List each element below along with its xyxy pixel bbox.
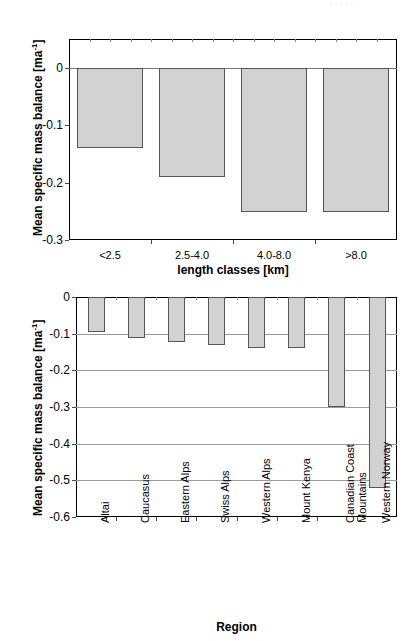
ytick-label: 0 [30, 291, 70, 303]
axis-minor-tick [116, 297, 117, 300]
bar [168, 297, 185, 342]
xtick-label: Caucasus [140, 474, 152, 523]
xtick-label-line: Eastern Alps [180, 461, 192, 523]
axis-minor-tick [277, 297, 278, 300]
xtick-label-line: Western Alps [261, 458, 273, 523]
bar [248, 297, 265, 348]
ytick-mark [72, 334, 76, 335]
xtick-label: Western Alps [261, 458, 273, 523]
xtick-label: Canadian CoastMountains [345, 444, 368, 523]
xtick-mark [116, 517, 117, 521]
xtick-label-line: Caucasus [140, 474, 152, 523]
xtick-label: Altai [100, 502, 112, 523]
xtick-mark [196, 517, 197, 521]
xtick-label-line: Swiss Alps [220, 470, 232, 523]
ytick-mark [72, 407, 76, 408]
axis-title-y: Mean specific mass balance [ma-1] [30, 319, 45, 516]
gridline [76, 334, 397, 335]
xtick-label: Swiss Alps [220, 470, 232, 523]
chart-regions: 0-0.1-0.2-0.3-0.4-0.5-0.6AltaiCaucasusEa… [0, 0, 418, 641]
axis-title-x: Region [76, 620, 397, 634]
gridline [76, 407, 397, 408]
axis-minor-tick [317, 297, 318, 300]
xtick-label: Western Norway [381, 442, 393, 523]
bar [328, 297, 345, 407]
xtick-mark [156, 517, 157, 521]
xtick-label-line: Altai [100, 502, 112, 523]
xtick-label: Eastern Alps [180, 461, 192, 523]
xtick-label-line: Canadian Coast [345, 444, 357, 523]
ytick-mark [72, 297, 76, 298]
xtick-mark [237, 517, 238, 521]
xtick-label: Mount Kenya [301, 458, 313, 523]
axis-minor-tick [196, 297, 197, 300]
bar [288, 297, 305, 348]
bar [88, 297, 105, 332]
xtick-label-line: Western Norway [381, 442, 393, 523]
xtick-label-line: Mountains [356, 444, 368, 523]
axis-minor-tick [237, 297, 238, 300]
bar [128, 297, 145, 338]
xtick-mark [317, 517, 318, 521]
ytick-mark [72, 370, 76, 371]
bar [208, 297, 225, 345]
ytick-mark [72, 444, 76, 445]
ytick-mark [72, 517, 76, 518]
gridline [76, 370, 397, 371]
xtick-mark [277, 517, 278, 521]
axis-minor-tick [357, 297, 358, 300]
xtick-label-line: Mount Kenya [301, 458, 313, 523]
axis-minor-tick [156, 297, 157, 300]
axis-title-y-superscript: -1 [30, 323, 39, 330]
ytick-mark [72, 480, 76, 481]
